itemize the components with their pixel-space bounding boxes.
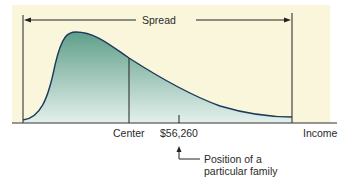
distribution-diagram xyxy=(0,0,344,178)
annotation-line-2: particular family xyxy=(204,165,278,177)
annotation-pointer xyxy=(179,150,200,159)
annotation-line-1: Position of a xyxy=(204,153,262,165)
arrowhead-up-icon xyxy=(177,146,182,152)
center-label: Center xyxy=(113,127,145,139)
spread-label: Spread xyxy=(140,14,178,26)
value-label: $56,260 xyxy=(160,127,198,139)
axis-label: Income xyxy=(303,127,337,139)
